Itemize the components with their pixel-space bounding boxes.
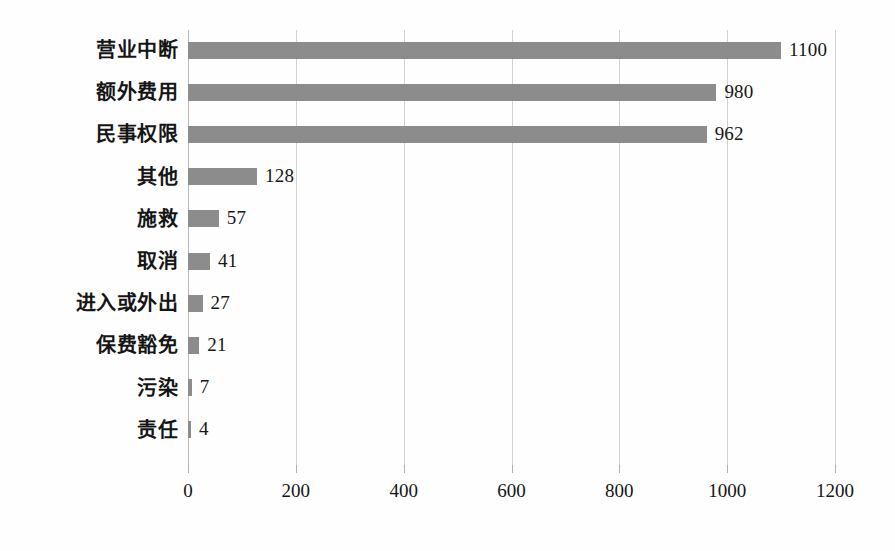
category-label: 保费豁免	[3, 335, 178, 355]
bar	[188, 168, 257, 185]
bar	[188, 379, 192, 396]
gridline	[835, 30, 836, 465]
category-label: 施救	[3, 209, 178, 229]
x-axis-tick	[404, 465, 405, 473]
bar-value-label: 21	[207, 334, 226, 356]
x-axis-tick	[727, 465, 728, 473]
x-axis-tick	[296, 465, 297, 473]
x-axis-tick-label: 200	[282, 480, 311, 502]
category-label: 营业中断	[3, 40, 178, 60]
bar-value-label: 962	[715, 123, 744, 145]
category-label: 额外费用	[3, 82, 178, 102]
category-label: 污染	[3, 378, 178, 398]
bar-row: 57	[188, 210, 835, 227]
bar-chart: 11009809621285741272174 营业中断额外费用民事权限其他施救…	[0, 0, 895, 551]
bar	[188, 126, 707, 143]
bar-value-label: 41	[218, 250, 237, 272]
bar-value-label: 7	[200, 376, 210, 398]
x-axis-tick	[835, 465, 836, 473]
x-axis-tick	[619, 465, 620, 473]
bar	[188, 253, 210, 270]
bar-row: 21	[188, 337, 835, 354]
x-axis-tick	[188, 465, 189, 473]
x-axis-tick-label: 0	[183, 480, 193, 502]
category-label: 进入或外出	[3, 293, 178, 313]
bar-row: 128	[188, 168, 835, 185]
bar-value-label: 57	[227, 207, 246, 229]
bar	[188, 42, 781, 59]
bars-layer: 11009809621285741272174	[188, 30, 835, 465]
bar-value-label: 27	[211, 292, 230, 314]
x-axis-tick-label: 400	[389, 480, 418, 502]
x-axis-tick-label: 1200	[816, 480, 854, 502]
bar-row: 1100	[188, 42, 835, 59]
category-labels: 营业中断额外费用民事权限其他施救取消进入或外出保费豁免污染责任	[0, 30, 178, 465]
category-label: 责任	[3, 420, 178, 440]
x-axis-tick	[512, 465, 513, 473]
category-label: 民事权限	[3, 124, 178, 144]
bar	[188, 295, 203, 312]
bar-value-label: 128	[265, 165, 294, 187]
bar-row: 980	[188, 84, 835, 101]
bar-value-label: 4	[199, 418, 209, 440]
bar-value-label: 1100	[789, 39, 827, 61]
x-axis-tick-label: 800	[605, 480, 634, 502]
category-label: 取消	[3, 251, 178, 271]
bar	[188, 210, 219, 227]
bar-row: 962	[188, 126, 835, 143]
bar-row: 41	[188, 253, 835, 270]
bar	[188, 337, 199, 354]
bar-row: 7	[188, 379, 835, 396]
category-label: 其他	[3, 167, 178, 187]
x-axis-tick-label: 1000	[708, 480, 746, 502]
bar-value-label: 980	[724, 81, 753, 103]
bar-row: 27	[188, 295, 835, 312]
bar	[188, 84, 716, 101]
bar	[188, 421, 191, 438]
bar-row: 4	[188, 421, 835, 438]
x-axis-tick-label: 600	[497, 480, 526, 502]
